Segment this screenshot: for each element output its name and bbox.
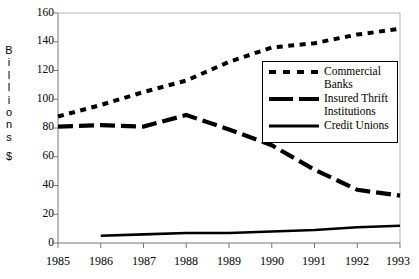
x-tick-label: 1990 [252, 255, 292, 267]
legend-label-commercial-banks-line2: Banks [324, 78, 353, 91]
chart-legend: Commercial Banks Insured Thrift Institut… [262, 61, 398, 143]
x-tick-label: 1993 [378, 255, 418, 267]
chart-figure: B i l l i o n s $ 160 140 120 100 80 60 … [0, 0, 419, 279]
x-tick-label: 1986 [81, 255, 121, 267]
legend-label-insured-thrift-line1: Insured Thrift [324, 92, 388, 105]
legend-label-credit-unions: Credit Unions [324, 119, 389, 132]
x-tick-label: 1985 [38, 255, 78, 267]
x-tick-label: 1991 [294, 255, 334, 267]
x-tick-label: 1992 [337, 255, 377, 267]
legend-label-commercial-banks-line1: Commercial [324, 65, 381, 78]
x-tick-label: 1989 [209, 255, 249, 267]
x-tick-label: 1987 [124, 255, 164, 267]
x-tick-label: 1988 [166, 255, 206, 267]
legend-label-insured-thrift-line2: Institutions [324, 105, 376, 118]
